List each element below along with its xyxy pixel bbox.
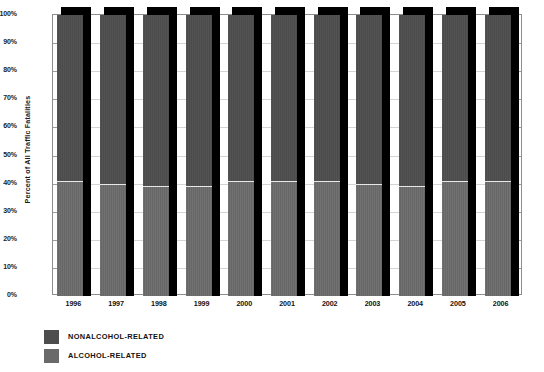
- bar-group[interactable]: [100, 15, 134, 296]
- bar-group[interactable]: [228, 15, 262, 296]
- bar-top-cap: [318, 7, 348, 15]
- legend-label: NONALCOHOL-RELATED: [68, 332, 164, 341]
- bar-segment-nonalcohol[interactable]: [228, 15, 254, 181]
- legend-swatch: [44, 330, 59, 344]
- bar-split-line: [143, 186, 169, 187]
- y-tick-label: 50%: [0, 151, 17, 158]
- bar-split-line: [186, 186, 212, 187]
- x-tick-label: 2000: [223, 299, 266, 308]
- y-tick-label: 60%: [0, 122, 17, 129]
- bar-segment-nonalcohol[interactable]: [442, 15, 468, 181]
- bar-split-line: [356, 184, 382, 185]
- bar-segment-alcohol[interactable]: [57, 181, 83, 296]
- bar-segment-nonalcohol[interactable]: [186, 15, 212, 186]
- bar-split-line: [57, 181, 83, 182]
- legend-item[interactable]: ALCOHOL-RELATED: [44, 346, 164, 365]
- bar-segment-alcohol[interactable]: [186, 186, 212, 296]
- x-tick-label: 2003: [351, 299, 394, 308]
- legend-swatch: [44, 349, 59, 363]
- chart-figure: Percent of All Traffic Fatalities 0%10%2…: [0, 0, 544, 372]
- bar-segment-nonalcohol[interactable]: [399, 15, 425, 186]
- y-tick-label: 10%: [0, 263, 17, 270]
- plot-area: [52, 14, 522, 295]
- bar-top-cap: [147, 7, 177, 15]
- y-tick-label: 70%: [0, 94, 17, 101]
- y-tick-label: 0%: [0, 291, 17, 298]
- bar-top-cap: [489, 7, 519, 15]
- bar-segment-alcohol[interactable]: [143, 186, 169, 296]
- bar-segment-nonalcohol[interactable]: [271, 15, 297, 181]
- bar-segment-alcohol[interactable]: [314, 181, 340, 296]
- bar-segment-nonalcohol[interactable]: [100, 15, 126, 184]
- bar-segment-alcohol[interactable]: [271, 181, 297, 296]
- bar-top-cap: [360, 7, 390, 15]
- legend-item[interactable]: NONALCOHOL-RELATED: [44, 327, 164, 346]
- x-tick-label: 2005: [437, 299, 480, 308]
- bar-segment-alcohol[interactable]: [356, 184, 382, 296]
- bar-segment-alcohol[interactable]: [485, 181, 511, 296]
- y-tick-label: 40%: [0, 179, 17, 186]
- x-tick-label: 1997: [95, 299, 138, 308]
- bar-segment-alcohol[interactable]: [228, 181, 254, 296]
- bar-group[interactable]: [399, 15, 433, 296]
- y-tick-label: 100%: [0, 10, 17, 17]
- bar-group[interactable]: [314, 15, 348, 296]
- bar-segment-alcohol[interactable]: [399, 186, 425, 296]
- legend-label: ALCOHOL-RELATED: [68, 351, 147, 360]
- bar-group[interactable]: [442, 15, 476, 296]
- x-tick-label: 2004: [394, 299, 437, 308]
- x-tick-label: 2001: [266, 299, 309, 308]
- y-tick-label: 20%: [0, 235, 17, 242]
- bar-group[interactable]: [143, 15, 177, 296]
- y-axis-title: Percent of All Traffic Fatalities: [23, 60, 32, 240]
- x-tick-label: 1996: [52, 299, 95, 308]
- bar-group[interactable]: [485, 15, 519, 296]
- x-tick-label: 1999: [180, 299, 223, 308]
- y-tick-label: 90%: [0, 38, 17, 45]
- y-tick-label: 30%: [0, 207, 17, 214]
- bar-split-line: [100, 184, 126, 185]
- bar-group[interactable]: [271, 15, 305, 296]
- x-tick-label: 2006: [479, 299, 522, 308]
- bar-top-cap: [232, 7, 262, 15]
- bar-segment-alcohol[interactable]: [442, 181, 468, 296]
- y-tick-label: 80%: [0, 66, 17, 73]
- bar-top-cap: [275, 7, 305, 15]
- bar-split-line: [314, 181, 340, 182]
- bar-segment-nonalcohol[interactable]: [143, 15, 169, 186]
- bar-split-line: [271, 181, 297, 182]
- bar-split-line: [442, 181, 468, 182]
- bar-group[interactable]: [186, 15, 220, 296]
- bar-segment-alcohol[interactable]: [100, 184, 126, 296]
- x-tick-label: 1998: [137, 299, 180, 308]
- bar-top-cap: [104, 7, 134, 15]
- bar-split-line: [228, 181, 254, 182]
- bar-top-cap: [190, 7, 220, 15]
- bar-segment-nonalcohol[interactable]: [314, 15, 340, 181]
- bar-segment-nonalcohol[interactable]: [485, 15, 511, 181]
- bar-group[interactable]: [57, 15, 91, 296]
- bar-segment-nonalcohol[interactable]: [356, 15, 382, 184]
- bar-group[interactable]: [356, 15, 390, 296]
- bar-segment-nonalcohol[interactable]: [57, 15, 83, 181]
- bar-top-cap: [403, 7, 433, 15]
- bar-top-cap: [446, 7, 476, 15]
- bar-split-line: [399, 186, 425, 187]
- x-tick-label: 2002: [308, 299, 351, 308]
- chart-legend: NONALCOHOL-RELATEDALCOHOL-RELATED: [44, 327, 164, 365]
- bar-top-cap: [61, 7, 91, 15]
- bar-split-line: [485, 181, 511, 182]
